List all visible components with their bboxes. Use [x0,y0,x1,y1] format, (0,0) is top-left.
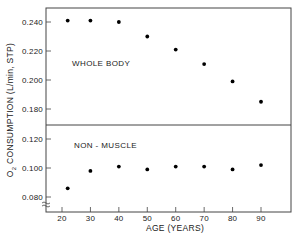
y-tick-label: 0.220 [22,47,43,56]
data-point [231,168,235,172]
data-point [174,165,178,169]
y-tick-label: 0.180 [22,105,43,114]
data-point [89,19,93,23]
data-point [231,80,235,84]
x-tick-label: 60 [171,214,181,223]
data-point [117,165,121,169]
oxygen-consumption-chart: 0.2400.2200.2000.1800.1200.1000.080 2030… [0,0,295,236]
y-axis-title: O2 CONSUMPTION (L/min, STP) [5,43,17,177]
data-point [174,48,178,52]
data-point [66,19,70,23]
y-tick-label: 0.240 [22,18,43,27]
x-tick-label: 50 [143,214,153,223]
x-tick-label: 90 [256,214,266,223]
x-axis-ticks: 2030405060708090 [57,207,266,223]
x-tick-label: 20 [57,214,67,223]
data-point [259,100,263,104]
data-point [145,35,149,39]
y-tick-label: 0.080 [22,193,43,202]
y-tick-label: 0.200 [22,76,43,85]
x-tick-label: 30 [86,214,96,223]
data-point [89,169,93,173]
panel-label-whole-body: WHOLE BODY [72,59,130,68]
x-axis-title: AGE (YEARS) [146,223,204,233]
y-tick-label: 0.120 [22,135,43,144]
data-point [259,163,263,167]
x-tick-label: 70 [199,214,209,223]
x-tick-label: 80 [228,214,238,223]
non-muscle-series [66,163,263,190]
data-point [145,168,149,172]
plot-frame [46,8,291,212]
data-point [202,165,206,169]
data-point [202,62,206,66]
data-point [117,20,121,24]
y-axis-ticks: 0.2400.2200.2000.1800.1200.1000.080 [22,18,51,202]
data-point [66,186,70,190]
x-tick-label: 40 [114,214,124,223]
panel-label-non-muscle: NON - MUSCLE [74,141,137,150]
y-tick-label: 0.100 [22,164,43,173]
